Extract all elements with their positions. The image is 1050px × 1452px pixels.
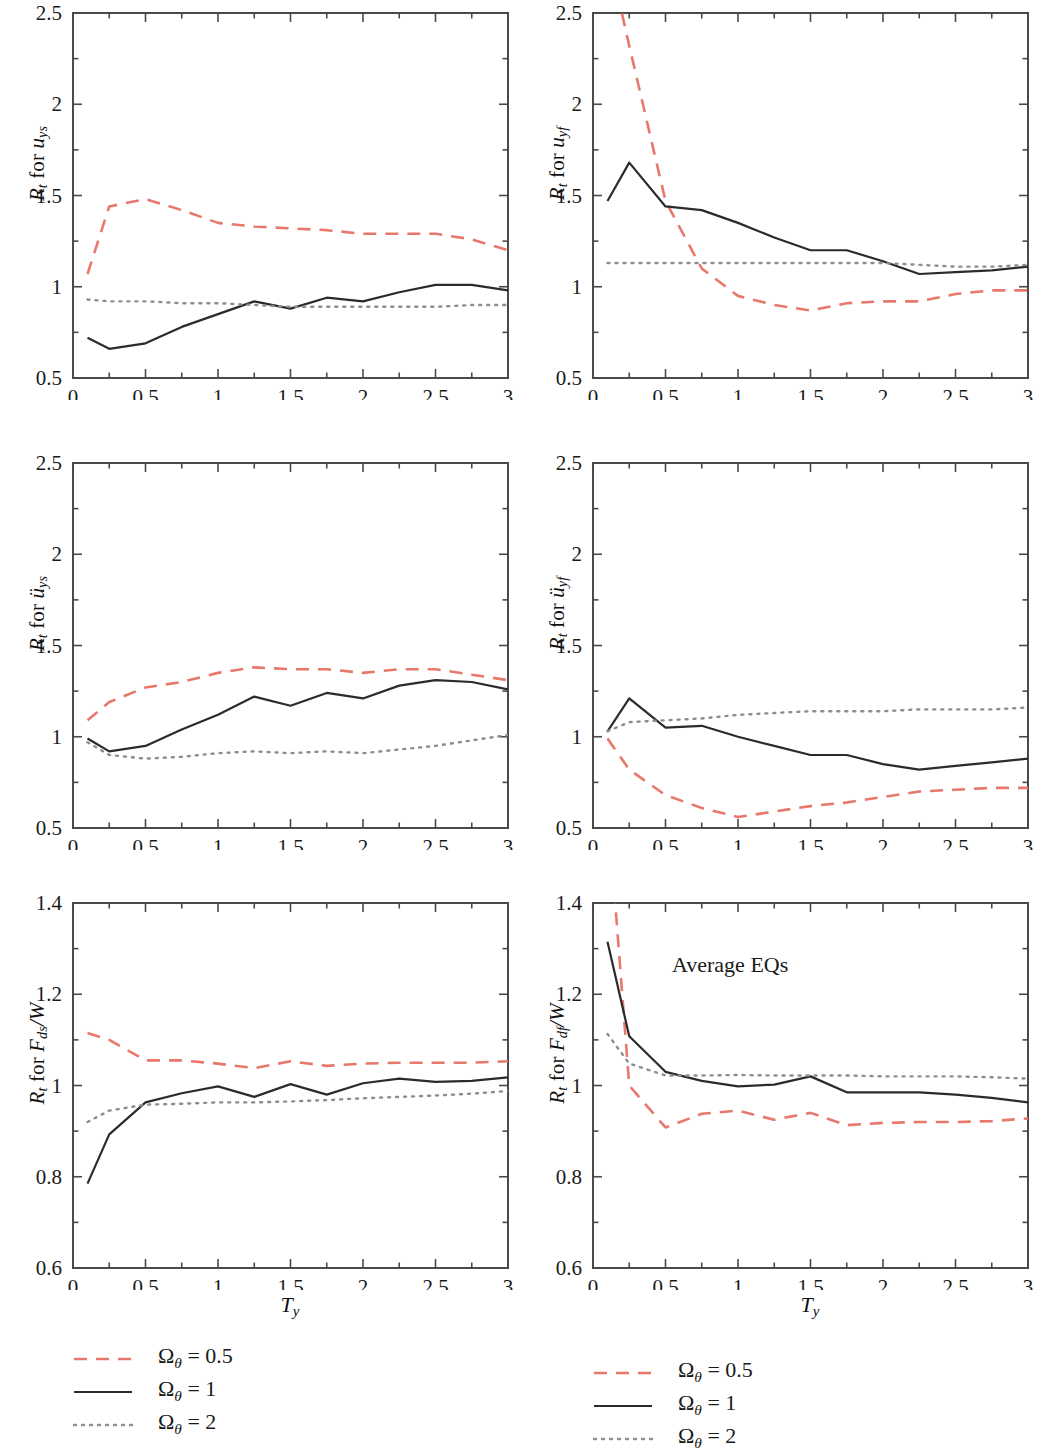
series-group — [608, 890, 1029, 1127]
plot-frame — [593, 903, 1028, 1268]
x-tick-label: 0.5 — [652, 385, 678, 400]
x-tick-label: 0 — [588, 385, 599, 400]
x-tick-label: 1.5 — [277, 835, 303, 850]
x-tick-label: 2 — [358, 835, 369, 850]
y-tick-label: 2.5 — [36, 451, 62, 475]
y-tick-label: 2.5 — [556, 1, 582, 25]
legend-line-swatch — [72, 1417, 134, 1431]
plot-frame — [593, 463, 1028, 828]
y-tick-label: 2 — [572, 542, 583, 566]
series-line-1 — [608, 163, 1029, 274]
series-group — [88, 667, 509, 758]
legend-line-swatch — [72, 1351, 134, 1365]
x-tick-label: 0.5 — [132, 385, 158, 400]
x-tick-label: 2.5 — [942, 835, 968, 850]
x-tick-label: 0 — [588, 1275, 599, 1290]
series-line-1 — [88, 285, 509, 349]
plot-frame — [73, 13, 508, 378]
y-tick-label: 1 — [52, 275, 63, 299]
ticks — [593, 903, 1028, 1268]
y-tick-label: 0.8 — [556, 1165, 582, 1189]
panel-uys-acc: 00.511.522.530.511.522.5 — [0, 450, 520, 850]
y-tick-label: 0.5 — [556, 816, 582, 840]
y-tick-label: 1 — [572, 725, 583, 749]
x-tick-label: 0.5 — [652, 1275, 678, 1290]
series-line-2 — [608, 1034, 1029, 1079]
x-tick-label: 1 — [733, 385, 744, 400]
y-tick-label: 1 — [52, 1074, 63, 1098]
series-line-1 — [608, 942, 1029, 1103]
series-group — [88, 1033, 509, 1184]
y-tick-label: 0.6 — [556, 1256, 582, 1280]
x-tick-label: 2 — [358, 385, 369, 400]
y-tick-label: 2.5 — [556, 451, 582, 475]
x-tick-label: 1.5 — [797, 385, 823, 400]
y-tick-label: 1.4 — [556, 891, 583, 915]
panel-uys-svg: 00.511.522.530.511.522.5 — [0, 0, 520, 400]
y-tick-label: 2 — [572, 92, 583, 116]
x-axis-label-left-sub: y — [293, 1303, 300, 1319]
x-tick-label: 2.5 — [422, 835, 448, 850]
y-tick-label: 1 — [52, 725, 63, 749]
y-tick-label: 1.4 — [36, 891, 63, 915]
x-tick-label: 2.5 — [942, 385, 968, 400]
panel-fds-svg: 00.511.522.530.60.811.21.4 — [0, 890, 520, 1290]
series-line-0 — [608, 739, 1029, 817]
y-tick-label: 1 — [572, 275, 583, 299]
x-tick-label: 1.5 — [797, 1275, 823, 1290]
x-tick-label: 0.5 — [652, 835, 678, 850]
panel-uys-acc-y-axis-label: Rt for üys — [25, 513, 52, 713]
x-tick-label: 0 — [68, 1275, 79, 1290]
panel-uys-y-axis-label: Rt for uys — [25, 63, 52, 263]
x-tick-label: 3 — [503, 835, 514, 850]
legend-left: Ωθ = 0.5Ωθ = 1Ωθ = 2 — [72, 1341, 233, 1440]
x-tick-label: 2 — [358, 1275, 369, 1290]
plot-frame — [73, 903, 508, 1268]
legend-line-swatch — [72, 1384, 134, 1398]
x-tick-label: 1 — [213, 1275, 224, 1290]
legend-line-swatch — [592, 1365, 654, 1379]
panel-uys-acc-svg: 00.511.522.530.511.522.5 — [0, 450, 520, 850]
panel-uys: 00.511.522.530.511.522.5 — [0, 0, 520, 400]
x-tick-label: 2 — [878, 835, 889, 850]
x-tick-label: 2.5 — [942, 1275, 968, 1290]
legend-line-swatch — [592, 1431, 654, 1445]
series-line-1 — [88, 1077, 509, 1183]
y-tick-label: 0.6 — [36, 1256, 62, 1280]
ticks — [593, 13, 1028, 378]
series-group — [88, 199, 509, 349]
y-tick-label: 0.5 — [556, 366, 582, 390]
legend-item-label: Ωθ = 0.5 — [158, 1343, 233, 1372]
x-tick-label: 1 — [213, 835, 224, 850]
series-line-0 — [88, 667, 509, 720]
panel-uyf-svg: 00.511.522.530.511.522.5 — [520, 0, 1040, 400]
x-axis-label-right-sub: y — [813, 1303, 820, 1319]
x-axis-label-left-main: T — [281, 1292, 293, 1317]
panel-uyf: 00.511.522.530.511.522.5 — [520, 0, 1040, 400]
y-tick-label: 2 — [52, 92, 63, 116]
x-axis-label-right: Ty — [760, 1292, 860, 1320]
x-tick-label: 0 — [68, 385, 79, 400]
ticks — [73, 13, 508, 378]
y-tick-label: 1 — [572, 1074, 583, 1098]
panel-fdf-svg: 00.511.522.530.60.811.21.4 — [520, 890, 1040, 1290]
legend-item-2: Ωθ = 2 — [592, 1421, 753, 1452]
x-tick-label: 3 — [1023, 1275, 1034, 1290]
series-line-2 — [88, 300, 509, 307]
y-tick-label: 2.5 — [36, 1, 62, 25]
ticks — [73, 463, 508, 828]
series-line-0 — [88, 1033, 509, 1068]
x-tick-label: 1 — [733, 1275, 744, 1290]
x-tick-label: 1.5 — [277, 1275, 303, 1290]
legend-item-label: Ωθ = 1 — [678, 1390, 736, 1419]
plot-frame — [593, 13, 1028, 378]
panel-uyf-acc-y-axis-label: Rt for üyf — [545, 513, 572, 713]
ticks — [593, 463, 1028, 828]
x-tick-label: 3 — [1023, 385, 1034, 400]
y-tick-label: 2 — [52, 542, 63, 566]
panel-uyf-y-axis-label: Rt for uyf — [545, 63, 572, 263]
x-axis-label-left: Ty — [240, 1292, 340, 1320]
y-tick-label: 0.8 — [36, 1165, 62, 1189]
ticks — [73, 903, 508, 1268]
plot-frame — [73, 463, 508, 828]
